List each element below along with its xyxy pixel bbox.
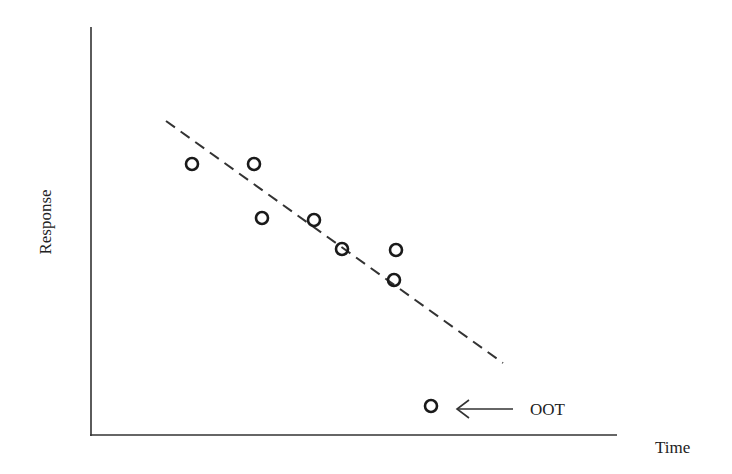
chart: OOT Response Time	[0, 0, 732, 474]
data-points	[186, 158, 402, 286]
data-point	[256, 212, 268, 224]
data-point	[336, 243, 348, 255]
data-point	[308, 214, 320, 226]
data-point	[186, 158, 198, 170]
data-point	[248, 158, 260, 170]
data-point	[390, 244, 402, 256]
oot-label: OOT	[530, 400, 566, 419]
x-axis-label: Time	[655, 438, 690, 457]
left-arrow-icon	[457, 400, 513, 418]
trend-line	[166, 121, 503, 363]
oot-data-point	[425, 400, 437, 412]
y-axis-label: Response	[36, 189, 55, 254]
